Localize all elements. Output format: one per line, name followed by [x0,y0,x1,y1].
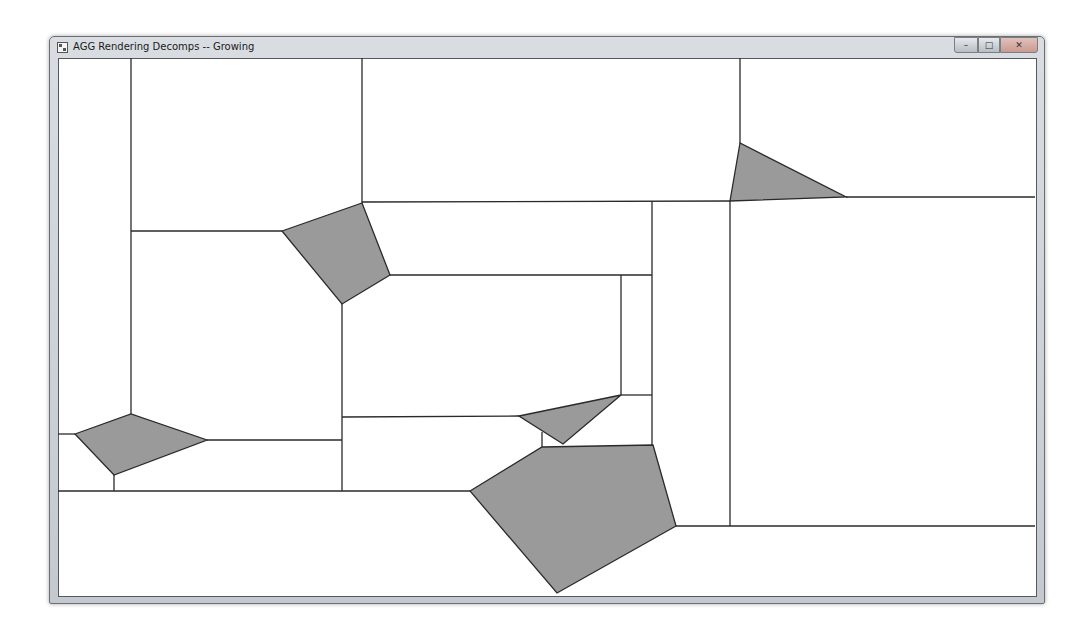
polygon-upper-right [730,143,846,201]
polygon-small-mid [519,395,621,444]
partition-line [342,416,519,417]
polygon-left [75,414,207,475]
partition-line [362,201,730,202]
polygon-large-bottom [470,445,676,593]
polygon-upper-mid [282,203,390,304]
decomposition-canvas[interactable] [0,0,1091,627]
